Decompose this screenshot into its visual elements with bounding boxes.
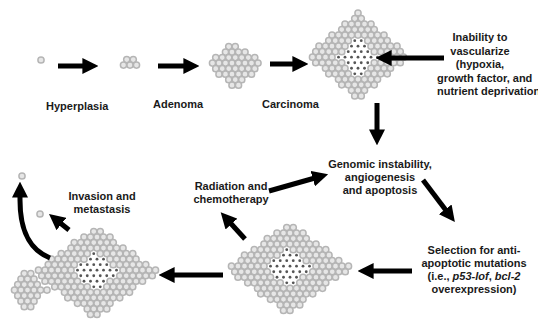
selection-line-4: overexpression)	[418, 283, 530, 296]
arrow-radiation-to-genomic	[269, 176, 322, 191]
label-selection-anti-apoptotic: Selection for anti- apoptotic mutations …	[418, 244, 530, 296]
arrow-to-invasion-cell	[54, 218, 69, 230]
vascularize-line-2: vascularize	[437, 45, 523, 59]
label-adenoma: Adenoma	[153, 98, 203, 111]
genomic-line-3: and apoptosis	[325, 184, 435, 197]
label-radiation-chemotherapy: Radiation and chemotherapy	[190, 180, 272, 206]
radiation-line-2: chemotherapy	[190, 193, 272, 206]
radiation-line-1: Radiation and	[190, 180, 272, 193]
gene-p53-lof: p53-lof	[453, 270, 489, 282]
label-hyperplasia: Hyperplasia	[46, 100, 108, 113]
genomic-line-1: Genomic instability,	[325, 158, 435, 171]
vascularize-line-4: growth factor, and	[437, 72, 523, 86]
selection-line-1: Selection for anti-	[418, 244, 530, 257]
selection-prefix: (i.e.,	[428, 270, 453, 282]
invasion-line-1: Invasion and	[62, 190, 142, 203]
label-genomic-instability: Genomic instability, angiogenesis and ap…	[325, 158, 435, 197]
genomic-line-2: angiogenesis	[325, 171, 435, 184]
arrow-metastasis-escape	[20, 188, 50, 258]
selection-line-2: apoptotic mutations	[418, 257, 530, 270]
arrow-resistant-tumor-to-radiation	[225, 217, 245, 239]
selection-line-3: (i.e., p53-lof, bcl-2	[418, 270, 530, 283]
vascularize-line-1: Inability to	[437, 31, 523, 45]
gene-bcl-2: bcl-2	[495, 270, 521, 282]
label-carcinoma: Carcinoma	[262, 98, 319, 111]
label-inability-to-vascularize: Inability to vascularize (hypoxia, growt…	[437, 31, 523, 99]
label-invasion-metastasis: Invasion and metastasis	[62, 190, 142, 216]
invasion-line-2: metastasis	[62, 203, 142, 216]
vascularize-line-3: (hypoxia,	[437, 58, 523, 72]
vascularize-line-5: nutrient deprivation)	[437, 85, 523, 99]
